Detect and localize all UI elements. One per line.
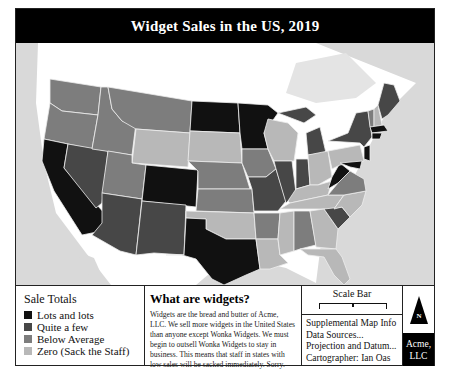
state-KS[interactable]	[196, 189, 254, 213]
north-company-panel: N Acme, LLC	[403, 286, 434, 366]
swatch-zero-icon	[24, 347, 32, 355]
map-title: Widget Sales in the US, 2019	[16, 9, 434, 43]
state-CO[interactable]	[142, 165, 198, 207]
supplemental-info: Supplemental Map Info Data Sources... Pr…	[302, 315, 402, 364]
state-SD[interactable]	[188, 131, 242, 163]
us-choropleth-map[interactable]	[16, 43, 434, 285]
state-AR[interactable]	[254, 213, 280, 239]
swatch-quite-icon	[24, 323, 32, 331]
cartographer: Cartographer: Ian Oas	[306, 353, 402, 365]
state-CT[interactable]	[372, 133, 382, 139]
legend-title: Sale Totals	[24, 292, 144, 307]
state-IN[interactable]	[296, 159, 310, 189]
map-frame: Widget Sales in the US, 2019	[15, 8, 435, 366]
north-arrow: N	[403, 286, 434, 333]
about-body: Widgets are the bread and butter of Acme…	[150, 310, 296, 370]
scale-bar: Scale Bar	[302, 286, 402, 315]
state-MS[interactable]	[278, 211, 294, 255]
map-area[interactable]	[16, 43, 434, 285]
state-WY[interactable]	[132, 129, 190, 167]
legend-panel: Sale Totals Lots and lots Quite a few Be…	[16, 286, 145, 366]
map-footer: Sale Totals Lots and lots Quite a few Be…	[16, 285, 434, 366]
company-label: Acme, LLC	[403, 333, 434, 366]
scale-bar-label: Scale Bar	[302, 286, 402, 299]
legend-item-zero: Zero (Sack the Staff)	[24, 345, 144, 357]
company-name-line1: Acme,	[406, 338, 431, 350]
legend-item-below: Below Average	[24, 333, 144, 345]
state-ND[interactable]	[190, 101, 240, 133]
info-panel: Scale Bar Supplemental Map Info Data Sou…	[302, 286, 403, 366]
data-sources: Data Sources...	[306, 330, 402, 342]
legend-item-quite: Quite a few	[24, 321, 144, 333]
about-panel: What are widgets? Widgets are the bread …	[145, 286, 302, 366]
state-NM[interactable]	[136, 201, 186, 255]
scale-bar-tick	[352, 303, 354, 307]
legend-item-lots: Lots and lots	[24, 309, 144, 321]
about-title: What are widgets?	[150, 292, 296, 307]
swatch-below-icon	[24, 335, 32, 343]
svg-text:N: N	[416, 312, 421, 320]
state-NJ[interactable]	[364, 145, 370, 161]
company-name-line2: LLC	[406, 350, 431, 362]
swatch-lots-icon	[24, 311, 32, 319]
north-arrow-icon: N	[410, 296, 428, 324]
projection-datum: Projection and Datum...	[306, 341, 402, 353]
supplemental-title: Supplemental Map Info	[306, 318, 402, 330]
